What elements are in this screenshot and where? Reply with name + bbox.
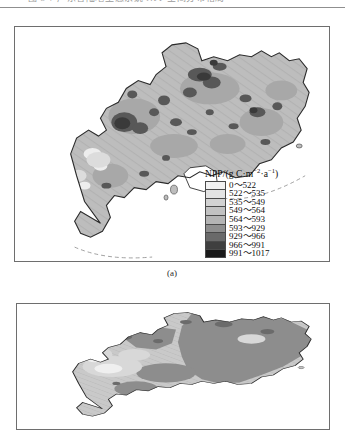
legend-item-list: 0～522522～535535～549549～564564～593593～929… [205, 181, 337, 258]
panel-a-caption: (a) [152, 268, 192, 278]
page-header-text-remnant: 图 5-7 广东省陆地生态系统 NPP 空间分布格局 [0, 0, 345, 7]
legend-item: 0～522 [205, 181, 337, 190]
header-divider-rule [0, 7, 345, 8]
header-remnant-label: 图 5-7 广东省陆地生态系统 NPP 空间分布格局 [28, 0, 225, 4]
legend-swatch [205, 224, 226, 233]
legend-title-part3: ) [275, 169, 278, 179]
offshore-islands-b [298, 367, 304, 369]
legend-item: 966～991 [205, 241, 337, 250]
legend-title-part2: ·a [260, 169, 268, 179]
map-b-svg [17, 304, 329, 429]
legend-swatch [205, 249, 226, 258]
legend-item: 991～1017 [205, 249, 337, 258]
map-panel-b [16, 303, 330, 430]
legend-swatch [205, 181, 226, 190]
legend-swatch [205, 241, 226, 250]
legend-swatch [205, 215, 226, 224]
legend-item: 564～593 [205, 215, 337, 224]
legend-title-part1: NPP/(g C·m [205, 169, 253, 179]
legend-label: 991～1017 [229, 249, 270, 258]
legend-swatch [205, 232, 226, 241]
legend-swatch [205, 198, 226, 207]
map-b-province-fill [17, 304, 329, 429]
legend-item: 593～929 [205, 224, 337, 233]
legend-swatch [205, 206, 226, 215]
map-legend: NPP/(g C·m−2·a−1) 0～522522～535535～549549… [205, 167, 337, 258]
legend-swatch [205, 189, 226, 198]
legend-item: 535～549 [205, 198, 337, 207]
maritime-boundary-dashed-a2 [75, 247, 153, 258]
legend-title: NPP/(g C·m−2·a−1) [205, 167, 337, 179]
legend-item: 549～564 [205, 206, 337, 215]
legend-item: 522～535 [205, 189, 337, 198]
legend-item: 929～966 [205, 232, 337, 241]
